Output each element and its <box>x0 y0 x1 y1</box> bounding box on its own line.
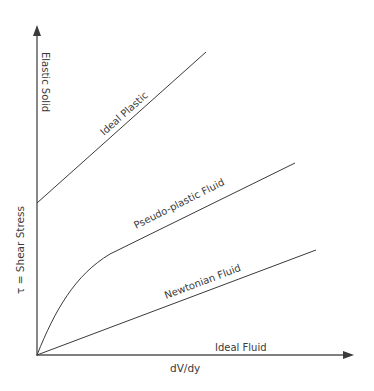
y-axis-arrow-icon <box>33 25 41 36</box>
elastic-solid-label: Elastic Solid <box>40 52 51 112</box>
rheology-diagram: Elastic Solid τ = Shear Stress Ideal Pla… <box>0 0 374 391</box>
ideal-plastic-line <box>37 52 206 203</box>
newtonian-line <box>37 250 316 355</box>
pseudo-plastic-curve <box>37 163 295 355</box>
x-axis-label: dV/dy <box>170 362 200 374</box>
ideal-plastic-label: Ideal Plastic <box>98 89 150 137</box>
newtonian-label: Newtonian Fluid <box>163 262 242 301</box>
y-axis-label: τ = Shear Stress <box>14 206 26 294</box>
ideal-fluid-label: Ideal Fluid <box>215 342 267 353</box>
x-axis-arrow-icon <box>343 351 354 359</box>
